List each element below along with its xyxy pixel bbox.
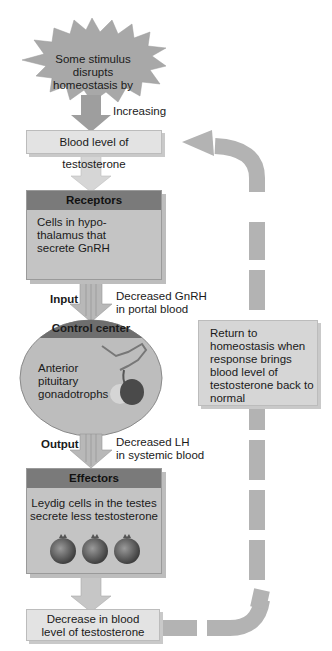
receptors-panel: Receptors Cells in hypo- thalamus that s… — [26, 190, 162, 280]
leydig-cells-icon — [47, 531, 147, 567]
effectors-title: Effectors — [27, 469, 161, 488]
receptors-title: Receptors — [27, 191, 161, 210]
decrease-box: Decrease in blood level of testosterone — [26, 609, 160, 641]
output-label: Output — [41, 438, 79, 451]
receptors-text: Cells in hypo- thalamus that secrete GnR… — [37, 216, 110, 255]
input-description: Decreased GnRH in portal blood — [116, 290, 207, 316]
control-center-title: Control center — [30, 322, 152, 335]
feedback-arrowhead-icon — [182, 130, 214, 156]
output-description: Decreased LH in systemic blood — [116, 436, 204, 462]
effectors-text: Leydig cells in the testes secrete less … — [27, 497, 161, 523]
increasing-label: Increasing — [113, 105, 166, 118]
input-label: Input — [50, 293, 78, 306]
stimulus-text: Some stimulus disrupts homeostasis by — [38, 53, 148, 92]
arrow-down-decrease-icon — [71, 572, 111, 612]
return-to-homeostasis-box: Return to homeostasis when response brin… — [198, 320, 318, 406]
blood-level-box: Blood level of testosterone — [26, 130, 162, 154]
control-center-text: Anterior pituitary gonadotrophs — [38, 362, 108, 401]
arrow-down-increasing-icon — [71, 95, 111, 132]
effectors-panel: Effectors Leydig cells in the testes sec… — [26, 468, 162, 574]
